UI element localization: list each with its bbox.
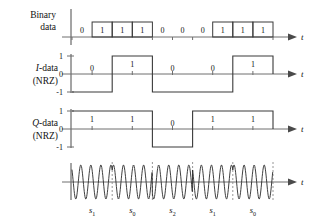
qpsk-timing-diagram: Binary data t 0111000111 I-data (NRZ) t …: [0, 0, 330, 221]
i-data-label-suffix: -data: [39, 63, 59, 73]
carrier-symbol-label: s0: [129, 205, 135, 217]
binary-bit-label: 0: [80, 26, 84, 35]
q-data-label-line1: Q-data: [32, 118, 59, 128]
binary-bit-label: 1: [241, 26, 245, 35]
binary-bit-cells: 0111000111: [72, 22, 273, 40]
carrier-symbol-subscript: 0: [253, 211, 256, 217]
carrier-symbol-label: s1: [89, 205, 95, 217]
q-data-label-suffix: -data: [39, 118, 59, 128]
i-data-axis-name: t: [301, 69, 304, 79]
i-data-label-line1: I-data: [35, 63, 59, 73]
carrier-symbol-labels: s1s0s2s1s0: [89, 205, 256, 217]
q-data-axis-name: t: [301, 124, 304, 134]
carrier-axis-name: t: [301, 177, 304, 187]
binary-data-row: Binary data t 0111000111: [30, 9, 304, 45]
carrier-row: t s1s0s2s1s0: [62, 162, 304, 217]
q-data-tick-label-neg1: -1: [56, 143, 63, 152]
carrier-axis-arrow-icon: [288, 179, 297, 186]
i-data-tick-label-neg1: -1: [56, 88, 63, 97]
binary-bit-label: 1: [100, 26, 104, 35]
nrz-symbol-label: 1: [211, 115, 215, 124]
q-data-tick-label-pos1: 1: [59, 107, 63, 116]
binary-bit-label: 0: [160, 26, 164, 35]
binary-bit-label: 1: [140, 26, 144, 35]
q-data-row: Q-data (NRZ) t 1 0 -1 11011: [32, 107, 304, 152]
i-data-axis-arrow-icon: [288, 71, 297, 78]
binary-bit-label: 1: [261, 26, 265, 35]
q-data-label-line2: (NRZ): [33, 131, 58, 142]
i-data-tick-label-zero: 0: [59, 70, 63, 79]
nrz-symbol-label: 1: [130, 115, 134, 124]
i-data-label-line2: (NRZ): [33, 76, 58, 87]
nrz-symbol-label: 1: [251, 115, 255, 124]
i-data-row: I-data (NRZ) t 1 0 -1 01001: [33, 52, 304, 97]
carrier-symbol-label: s1: [210, 205, 216, 217]
q-data-axis-arrow-icon: [288, 126, 297, 133]
binary-bit-label: 0: [181, 26, 185, 35]
i-data-tick-label-pos1: 1: [59, 52, 63, 61]
nrz-symbol-label: 1: [130, 60, 134, 69]
carrier-symbol-subscript: 0: [132, 211, 135, 217]
binary-data-label-line1: Binary: [30, 10, 56, 20]
carrier-symbol-subscript: 1: [92, 211, 95, 217]
carrier-symbol-label: s2: [169, 205, 175, 217]
binary-axis-arrow-icon: [288, 34, 297, 41]
binary-bit-label: 0: [201, 26, 205, 35]
binary-bit-label: 1: [221, 26, 225, 35]
binary-axis-name: t: [301, 32, 304, 42]
q-data-tick-label-zero: 0: [59, 125, 63, 134]
nrz-symbol-label: 1: [251, 60, 255, 69]
binary-data-label-line2: data: [40, 22, 57, 32]
carrier-symbol-subscript: 2: [173, 211, 176, 217]
carrier-symbol-subscript: 1: [213, 211, 216, 217]
carrier-symbol-label: s0: [250, 205, 256, 217]
binary-bit-label: 1: [120, 26, 124, 35]
nrz-symbol-label: 1: [90, 115, 94, 124]
